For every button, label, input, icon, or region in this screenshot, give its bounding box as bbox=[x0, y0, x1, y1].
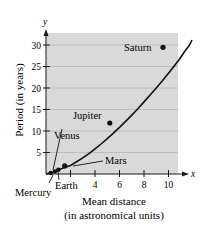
svg-text:15: 15 bbox=[32, 105, 42, 115]
x-axis-title-line1: Mean distance bbox=[82, 195, 146, 207]
point-saturn bbox=[160, 45, 165, 50]
x-tick-labels: 4 6 8 10 bbox=[93, 180, 174, 190]
y-axis-title: Period (in years) bbox=[13, 63, 26, 137]
svg-text:8: 8 bbox=[142, 180, 147, 190]
label-saturn: Saturn bbox=[124, 42, 152, 53]
svg-text:30: 30 bbox=[32, 41, 42, 51]
y-tick-labels: 5 10 15 20 25 30 bbox=[32, 41, 42, 159]
svg-text:6: 6 bbox=[117, 180, 122, 190]
point-mars bbox=[62, 163, 67, 168]
point-mercury bbox=[49, 171, 53, 175]
y-axis-symbol: y bbox=[42, 17, 48, 27]
label-venus: Venus bbox=[54, 130, 80, 141]
svg-text:4: 4 bbox=[93, 180, 98, 190]
svg-text:10: 10 bbox=[32, 127, 42, 137]
x-axis-arrow-icon bbox=[182, 172, 189, 177]
label-mars: Mars bbox=[105, 155, 127, 166]
label-mercury: Mercury bbox=[15, 187, 52, 198]
x-axis-symbol: x bbox=[190, 169, 196, 179]
y-axis-arrow-icon bbox=[44, 29, 49, 36]
point-earth bbox=[56, 168, 60, 172]
svg-text:10: 10 bbox=[164, 180, 174, 190]
svg-text:20: 20 bbox=[32, 84, 42, 94]
label-earth: Earth bbox=[55, 180, 78, 191]
svg-text:5: 5 bbox=[36, 148, 41, 158]
point-jupiter bbox=[107, 120, 112, 125]
svg-text:25: 25 bbox=[32, 62, 42, 72]
label-jupiter: Jupiter bbox=[73, 110, 102, 121]
chart: y x 5 10 15 20 25 30 4 6 8 10 bbox=[0, 0, 202, 232]
x-axis-title-line2: (in astronomical units) bbox=[64, 209, 164, 222]
